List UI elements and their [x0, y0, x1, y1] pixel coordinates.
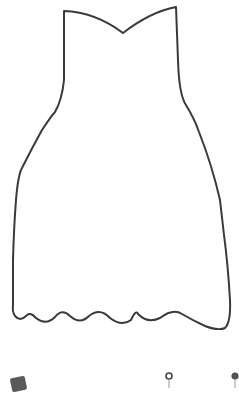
pin-icon[interactable] [165, 372, 173, 388]
pin-icon[interactable] [231, 372, 239, 388]
color-swatch-icon[interactable] [10, 376, 28, 393]
